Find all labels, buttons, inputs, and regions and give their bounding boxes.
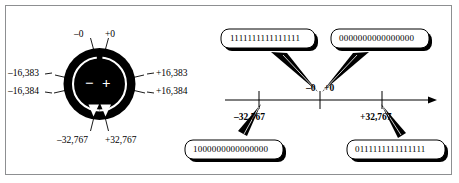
numberline-label-positive-zero: +0 (324, 84, 334, 94)
callout-leader-highlights (244, 55, 401, 135)
numberline-label-negative-zero: –0 (306, 84, 316, 94)
numberline-arrowhead (428, 97, 437, 104)
callout-bits-negative-zero: 1111111111111111 (230, 34, 300, 43)
dial-group (45, 38, 154, 131)
dial-plus-symbol: + (102, 76, 111, 91)
dial-label-positive-32767: +32,767 (105, 136, 136, 146)
dial-track-gap (97, 54, 103, 61)
callout-bits-negative-max: 1000000000000000 (193, 145, 268, 154)
callout-leader-wedges (238, 52, 406, 138)
figure-root: − + –0 +0 –16,383 –16,384 +16,383 +16,38… (0, 0, 459, 183)
callout-bits-positive-max: 0111111111111111 (355, 145, 426, 154)
numberline-group (225, 91, 437, 109)
numberline-label-positive-32767: +32,767 (360, 113, 392, 123)
dial-label-positive-zero: +0 (105, 30, 115, 40)
dial-label-negative-16383: –16,383 (8, 69, 39, 79)
dial-label-positive-16383: +16,383 (156, 69, 187, 79)
dial-minus-symbol: − (85, 76, 94, 91)
numberline-label-negative-32767: –32,767 (234, 113, 265, 123)
dial-label-negative-32767: –32,767 (57, 136, 88, 146)
dial-label-positive-16384: +16,384 (156, 87, 187, 97)
figure-artwork (0, 0, 459, 183)
callout-bits-positive-zero: 0000000000000000 (339, 34, 414, 43)
dial-label-negative-zero: –0 (74, 30, 84, 40)
dial-label-negative-16384: –16,384 (8, 87, 39, 97)
